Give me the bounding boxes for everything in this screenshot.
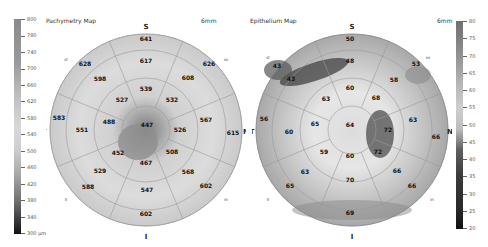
pachymetry-middle-in: 568 [182, 168, 195, 175]
pachymetry-label-it: it [65, 197, 68, 202]
epithelium-scale-tick: 35 [463, 174, 475, 179]
pachymetry-scale-tick: 660 [21, 83, 37, 88]
epithelium-outer-it: 65 [286, 182, 294, 189]
epithelium-scale-tick: 65 [463, 71, 475, 76]
epithelium-label-st: st [266, 55, 270, 60]
pachymetry-outer-in: 602 [200, 182, 213, 189]
epithelium-scale-tick: 70 [463, 54, 475, 59]
pachymetry-scale-tick: 740 [21, 50, 37, 55]
pachymetry-label-st: st [64, 57, 68, 62]
epithelium-map: S I T N st sn it in 64 60 68 72 72 60 59… [252, 20, 452, 247]
epithelium-label-superior: S [349, 23, 354, 31]
epithelium-outer-s: 50 [346, 35, 354, 42]
pachymetry-label-nasal: N [243, 128, 246, 136]
pachymetry-middle-sn: 608 [182, 74, 195, 81]
epithelium-center-value: 64 [346, 121, 354, 128]
epithelium-scale-tick: 40 [463, 157, 475, 162]
epithelium-middle-t: 60 [285, 128, 293, 135]
epithelium-label-sn: sn [426, 55, 431, 60]
pachymetry-middle-i: 547 [141, 186, 154, 193]
pachymetry-scale-tick: 380 [21, 198, 37, 203]
epithelium-label-nasal: N [447, 128, 452, 136]
epithelium-inner-n: 72 [384, 126, 392, 133]
epithelium-outer-t: 56 [260, 115, 268, 122]
pachymetry-scale-tick: 800 [21, 17, 37, 22]
pachymetry-label-in: in [224, 197, 228, 202]
epithelium-inner-i: 60 [346, 152, 354, 159]
epithelium-scale-tick: 30 [463, 192, 475, 197]
epithelium-inner-sn: 68 [372, 94, 380, 101]
pachymetry-scale-tick: 300 µm [21, 231, 46, 236]
pachymetry-scale-tick: 580 [21, 116, 37, 121]
epithelium-label-in: in [430, 197, 434, 202]
epithelium-inner-s: 60 [346, 84, 354, 91]
pachymetry-inner-sn: 532 [166, 96, 179, 103]
pachymetry-middle-s: 617 [140, 57, 153, 64]
epithelium-scale-tick: 25 [463, 209, 475, 214]
pachymetry-outer-n: 615 [227, 129, 240, 136]
epithelium-outer-n: 66 [432, 133, 440, 140]
pachymetry-scale-gradient [14, 19, 21, 234]
epithelium-scale-tick: 45 [463, 140, 475, 145]
pachymetry-scale-tick: 500 [21, 149, 37, 154]
epithelium-scale-tick: 50 [463, 123, 475, 128]
pachymetry-label-superior: S [143, 23, 148, 31]
epithelium-middle-n: 63 [409, 116, 417, 123]
epithelium-label-it: it [267, 197, 270, 202]
pachymetry-inner-in: 508 [166, 148, 179, 155]
pachymetry-outer-it: 588 [82, 183, 95, 190]
epithelium-inner-it: 59 [320, 148, 328, 155]
epithelium-scale-tick: 20 [463, 226, 475, 231]
epithelium-outer-in: 66 [408, 182, 416, 189]
pachymetry-inner-st: 527 [116, 96, 129, 103]
pachymetry-inner-t: 488 [103, 118, 116, 125]
pachymetry-outer-s: 641 [140, 35, 153, 42]
pachymetry-scale-tick: 780 [21, 33, 37, 38]
pachymetry-middle-st: 598 [94, 75, 107, 82]
pachymetry-scale-tick: 620 [21, 99, 37, 104]
epithelium-middle-st: 43 [287, 75, 295, 82]
pachymetry-middle-n: 567 [200, 116, 213, 123]
pachymetry-inner-it: 452 [112, 149, 125, 156]
epithelium-outer-st: 43 [273, 62, 281, 69]
pachymetry-scale-tick: 540 [21, 132, 37, 137]
pachymetry-map: S I T N st sn it in 447 539 532 526 508 … [46, 20, 246, 247]
epithelium-outer-i: 69 [346, 209, 354, 216]
pachymetry-inner-s: 539 [140, 85, 153, 92]
pachymetry-outer-t: 583 [53, 114, 66, 121]
pachymetry-scale-tick: 420 [21, 182, 37, 187]
epithelium-middle-i: 70 [346, 176, 354, 183]
epithelium-middle-in: 66 [393, 167, 401, 174]
epithelium-label-inferior: I [351, 233, 354, 241]
epithelium-outer-sn: 53 [412, 60, 420, 67]
pachymetry-outer-i: 602 [140, 210, 153, 217]
epithelium-scale-gradient [456, 21, 463, 229]
epithelium-inner-st: 63 [322, 95, 330, 102]
epithelium-middle-sn: 58 [390, 76, 398, 83]
pachymetry-scale-tick: 700 [21, 66, 37, 71]
pachymetry-inner-n: 526 [174, 126, 187, 133]
epithelium-scale-tick: 75 [463, 36, 475, 41]
pachymetry-label-temporal: T [46, 128, 47, 136]
pachymetry-outer-sn: 626 [203, 60, 216, 67]
epithelium-scale-tick: 60 [463, 88, 475, 93]
pachymetry-center-value: 447 [141, 121, 154, 128]
pachymetry-outer-st: 628 [79, 60, 92, 67]
epithelium-label-temporal: T [252, 128, 255, 136]
pachymetry-label-sn: sn [224, 57, 229, 62]
epithelium-scale-tick: 55 [463, 105, 475, 110]
epithelium-scale-tick: 80 [463, 19, 475, 24]
epithelium-inner-in: 72 [374, 148, 382, 155]
pachymetry-scale-tick: 460 [21, 165, 37, 170]
pachymetry-middle-it: 529 [94, 167, 107, 174]
pachymetry-label-inferior: I [145, 233, 148, 241]
pachymetry-inner-i: 467 [140, 159, 153, 166]
pachymetry-scale-tick: 340 [21, 215, 37, 220]
epithelium-middle-s: 48 [346, 57, 354, 64]
epithelium-inner-t: 65 [311, 120, 319, 127]
pachymetry-middle-t: 551 [76, 126, 89, 133]
epithelium-middle-it: 63 [301, 168, 309, 175]
